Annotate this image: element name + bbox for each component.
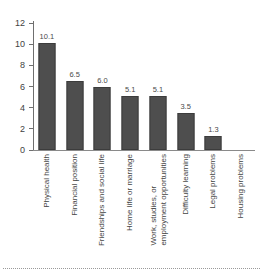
bar-slot: 5.1 bbox=[144, 23, 172, 150]
category-label-slot: Housing problems bbox=[227, 154, 255, 250]
y-tick-label: 10 bbox=[15, 40, 25, 49]
y-tick-label: 6 bbox=[20, 82, 25, 91]
x-axis-label: Legal problems bbox=[209, 154, 219, 209]
bar-value-label: 5.1 bbox=[125, 86, 135, 94]
y-tick-label: 4 bbox=[20, 103, 25, 112]
x-axis-label: Physical health bbox=[42, 154, 52, 208]
bar-slot: 3.5 bbox=[172, 23, 200, 150]
bar-slot bbox=[227, 23, 255, 150]
y-tick-label: 8 bbox=[20, 61, 25, 70]
x-axis-label: Financial position bbox=[70, 154, 80, 216]
bar[interactable] bbox=[122, 96, 139, 150]
bar-value-label: 3.5 bbox=[180, 103, 190, 111]
x-axis-label: Home life or marriage bbox=[125, 154, 135, 231]
x-axis-label: Friendships and social life bbox=[98, 154, 108, 246]
bar-slot: 1.3 bbox=[200, 23, 228, 150]
bar-chart-figure: 024681012 10.16.56.05.15.13.51.3 Physica… bbox=[0, 0, 263, 279]
bar-value-label: 6.0 bbox=[97, 77, 107, 85]
x-axis-label: Difficulty learning bbox=[181, 154, 191, 215]
bar[interactable] bbox=[177, 113, 194, 150]
category-label-slot: Physical health bbox=[33, 154, 61, 250]
bar[interactable] bbox=[38, 43, 55, 150]
category-label-slot: Financial position bbox=[61, 154, 89, 250]
bar[interactable] bbox=[149, 96, 166, 150]
x-axis-label-line: employment opportunities bbox=[158, 154, 168, 246]
category-label-slot: Legal problems bbox=[200, 154, 228, 250]
bar-slot: 5.1 bbox=[116, 23, 144, 150]
footer-dotted-rule bbox=[3, 268, 260, 270]
bar-value-label: 6.5 bbox=[69, 71, 79, 79]
y-tick-label: 2 bbox=[20, 124, 25, 133]
x-axis-line bbox=[33, 150, 255, 151]
bar-slot: 6.5 bbox=[61, 23, 89, 150]
bar-slot: 6.0 bbox=[89, 23, 117, 150]
x-axis-label-line: Work, studies, or bbox=[148, 154, 158, 246]
category-label-slot: Work, studies, oremployment opportunitie… bbox=[144, 154, 172, 250]
x-axis-label: Work, studies, oremployment opportunitie… bbox=[148, 154, 167, 246]
x-axis-label: Housing problems bbox=[236, 154, 246, 218]
bar-value-label: 1.3 bbox=[208, 126, 218, 134]
category-label-slot: Friendships and social life bbox=[89, 154, 117, 250]
category-label-slot: Home life or marriage bbox=[116, 154, 144, 250]
bar-value-label: 5.1 bbox=[153, 86, 163, 94]
bar-value-label: 10.1 bbox=[40, 33, 55, 41]
bar[interactable] bbox=[205, 136, 222, 150]
bar[interactable] bbox=[66, 81, 83, 150]
bar-slot: 10.1 bbox=[33, 23, 61, 150]
bar[interactable] bbox=[94, 87, 111, 151]
category-label-slot: Difficulty learning bbox=[172, 154, 200, 250]
y-tick-label: 12 bbox=[15, 19, 25, 28]
plot-area: 10.16.56.05.15.13.51.3 bbox=[33, 23, 255, 150]
y-tick-label: 0 bbox=[20, 146, 25, 155]
